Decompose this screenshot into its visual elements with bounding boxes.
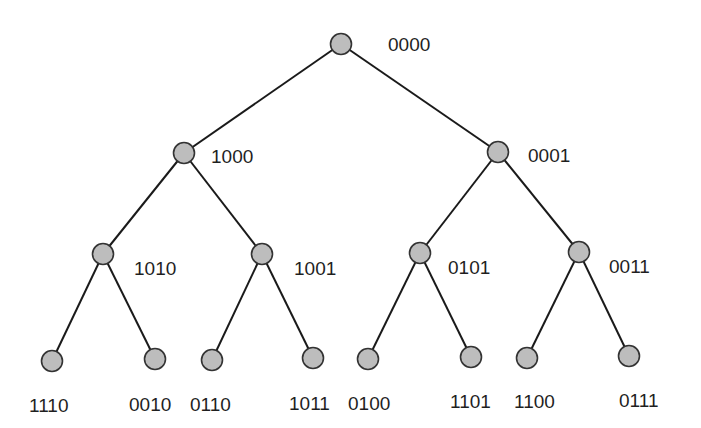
- tree-node-circle: [202, 350, 223, 371]
- tree-edge: [368, 253, 420, 359]
- tree-node-circle: [569, 242, 590, 263]
- tree-edge: [498, 152, 579, 252]
- tree-diagram: 0000 1000 0001 1010 1001 0101 0011 1110 …: [0, 0, 701, 428]
- tree-edge: [527, 252, 579, 358]
- tree-node-circle: [174, 143, 195, 164]
- node-label-1011: 1011: [289, 394, 330, 413]
- node-label-0101: 0101: [448, 258, 490, 277]
- tree-edges: [52, 44, 629, 361]
- node-label-1101: 1101: [450, 392, 491, 411]
- tree-node-circle: [461, 347, 482, 368]
- tree-node-circle: [410, 243, 431, 264]
- tree-node-circle: [93, 244, 114, 265]
- node-label-1010: 1010: [134, 259, 176, 278]
- tree-nodes: [42, 34, 640, 372]
- node-label-0100: 0100: [348, 394, 390, 413]
- tree-edge: [103, 153, 184, 254]
- tree-edge: [420, 152, 498, 253]
- tree-node-circle: [358, 349, 379, 370]
- tree-node-circle: [488, 142, 509, 163]
- node-label-1100: 1100: [514, 392, 555, 411]
- tree-node-circle: [303, 348, 324, 369]
- tree-node-circle: [517, 348, 538, 369]
- tree-node-circle: [42, 351, 63, 372]
- tree-edge: [52, 254, 103, 361]
- tree-edge: [184, 153, 262, 254]
- node-label-0010: 0010: [129, 395, 171, 414]
- tree-node-circle: [331, 34, 352, 55]
- node-label-0111: 0111: [619, 391, 658, 410]
- tree-edge: [184, 44, 341, 153]
- tree-graphics: [0, 0, 701, 428]
- tree-edge: [212, 254, 262, 360]
- node-label-0000: 0000: [388, 35, 430, 54]
- tree-edge: [341, 44, 498, 152]
- node-label-1001: 1001: [294, 259, 336, 278]
- tree-node-circle: [145, 349, 166, 370]
- node-label-1110: 1110: [29, 396, 68, 415]
- tree-node-circle: [619, 346, 640, 367]
- tree-node-circle: [252, 244, 273, 265]
- node-label-1000: 1000: [211, 147, 253, 166]
- node-label-0001: 0001: [528, 146, 570, 165]
- node-label-0011: 0011: [609, 257, 650, 276]
- node-label-0110: 0110: [190, 395, 231, 414]
